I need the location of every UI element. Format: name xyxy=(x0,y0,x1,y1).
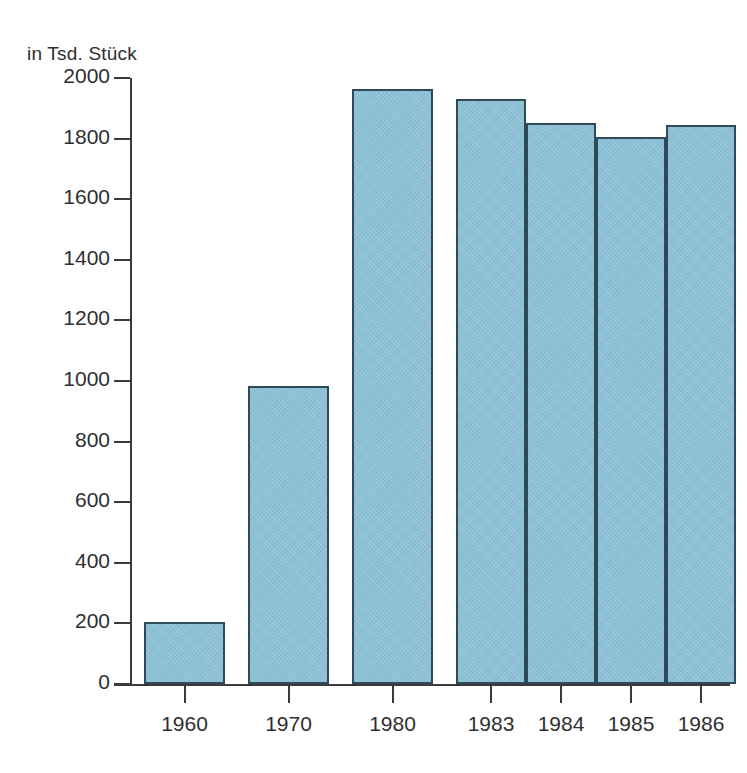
x-axis-line xyxy=(114,684,730,686)
x-axis-tick xyxy=(700,686,702,703)
y-axis-tick xyxy=(114,441,130,443)
y-axis-tick-label-group: 0200400600800100012001400160018002000 xyxy=(0,0,110,773)
y-axis-tick xyxy=(114,683,130,685)
x-axis-tick xyxy=(560,686,562,703)
bar-chart: in Tsd. Stück 02004006008001000120014001… xyxy=(0,0,747,773)
y-axis-tick xyxy=(114,259,130,261)
x-axis-tick-label-1985: 1985 xyxy=(608,712,655,736)
y-axis-tick xyxy=(114,138,130,140)
y-axis-tick-label: 600 xyxy=(4,488,110,512)
y-axis-tick xyxy=(114,562,130,564)
x-axis-tick xyxy=(184,686,186,703)
x-axis-tick-label-1960: 1960 xyxy=(161,712,208,736)
x-axis-tick-label-1983: 1983 xyxy=(468,712,515,736)
bar-1960 xyxy=(144,622,225,684)
y-axis-tick xyxy=(114,319,130,321)
y-axis-tick xyxy=(114,198,130,200)
y-axis-tick xyxy=(114,77,130,79)
x-axis-tick-label-1980: 1980 xyxy=(369,712,416,736)
y-axis-tick-label: 1600 xyxy=(4,185,110,209)
x-axis-tick xyxy=(490,686,492,703)
x-axis-tick-label-1970: 1970 xyxy=(265,712,312,736)
y-axis-tick-label: 1400 xyxy=(4,246,110,270)
y-axis-tick-label: 1800 xyxy=(4,125,110,149)
y-axis-tick-label: 200 xyxy=(4,609,110,633)
y-axis-tick-label: 0 xyxy=(4,670,110,694)
x-axis-tick-label-1986: 1986 xyxy=(678,712,725,736)
bar-1970 xyxy=(248,386,329,684)
plot-area xyxy=(130,78,730,684)
y-axis-tick-label: 400 xyxy=(4,549,110,573)
x-axis-tick xyxy=(630,686,632,703)
y-axis-tick xyxy=(114,622,130,624)
bar-1980 xyxy=(352,89,433,684)
bar-1983 xyxy=(456,99,526,684)
y-axis-tick xyxy=(114,380,130,382)
x-axis-tick-label-1984: 1984 xyxy=(538,712,585,736)
y-axis-tick-label: 800 xyxy=(4,428,110,452)
bar-1984 xyxy=(526,123,596,684)
y-axis-tick xyxy=(114,501,130,503)
x-axis-tick xyxy=(392,686,394,703)
bar-1986 xyxy=(666,125,736,684)
x-axis-tick xyxy=(288,686,290,703)
y-axis-tick-label: 2000 xyxy=(4,64,110,88)
y-axis-tick-label: 1200 xyxy=(4,306,110,330)
bar-1985 xyxy=(596,137,666,684)
y-axis-tick-label: 1000 xyxy=(4,367,110,391)
